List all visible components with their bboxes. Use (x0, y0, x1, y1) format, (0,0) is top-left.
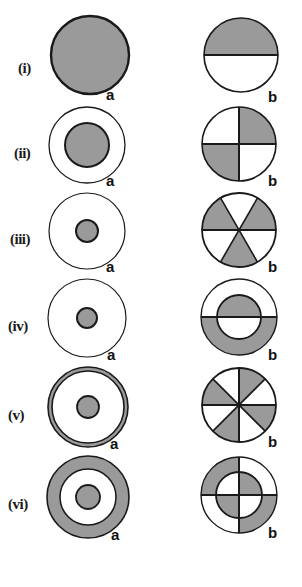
diagram-iv-a-label: a (107, 346, 115, 363)
figure-row-ii: (ii) a b (0, 104, 302, 189)
diagram-iii-b (199, 190, 279, 270)
inner-disc-shaded (76, 220, 98, 242)
diagram-iii-b-svg (199, 190, 279, 270)
diagram-iv-b-label: b (268, 346, 277, 363)
diagram-i-a-label: a (106, 86, 114, 103)
lower-half-white (204, 55, 278, 92)
row-numeral-iv: (iv) (8, 318, 28, 335)
diagram-i-a-svg (47, 12, 133, 98)
whole-disc-shaded (51, 16, 129, 94)
diagram-vi-a-svg (43, 452, 133, 542)
diagram-vi-a-label: a (111, 526, 119, 543)
figure-row-i: (i) a b (0, 12, 302, 97)
diagram-ii-b-label: b (268, 172, 277, 189)
diagram-v-b (199, 365, 279, 445)
diagram-iii-b-label: b (268, 258, 277, 275)
diagram-v-b-svg (199, 365, 279, 445)
diagram-vi-a (43, 452, 133, 542)
row-numeral-i: (i) (18, 60, 31, 77)
figure-row-iv: (iv) a b (0, 276, 302, 361)
inner-disc-shaded (77, 308, 97, 328)
diagram-iii-a (46, 190, 128, 272)
diagram-iv-a (45, 276, 129, 360)
diagram-i-b (200, 14, 282, 96)
figure-panel: (i) a b (ii) a (0, 0, 302, 587)
diagram-ii-a-svg (46, 104, 128, 186)
inner-disc-shaded (77, 396, 99, 418)
diagram-i-a (47, 12, 133, 98)
inner-disc-shaded (65, 123, 109, 167)
figure-row-iii: (iii) a (0, 190, 302, 275)
diagram-vi-b-label: b (268, 524, 277, 541)
diagram-v-a-label: a (110, 435, 118, 452)
figure-row-vi: (vi) a (0, 452, 302, 537)
figure-row-v: (v) a (0, 363, 302, 448)
diagram-ii-a-label: a (106, 172, 114, 189)
diagram-ii-b-svg (199, 104, 279, 184)
diagram-v-a (44, 363, 132, 451)
diagram-v-b-label: b (268, 433, 277, 450)
diagram-iv-a-svg (45, 276, 129, 360)
diagram-i-b-label: b (268, 88, 277, 105)
row-numeral-ii: (ii) (14, 145, 30, 162)
diagram-v-a-svg (44, 363, 132, 451)
diagram-ii-a (46, 104, 128, 186)
row-numeral-vi: (vi) (8, 496, 28, 513)
diagram-iii-a-svg (46, 190, 128, 272)
diagram-ii-b (199, 104, 279, 184)
inner-disc-shaded (76, 485, 100, 509)
row-numeral-iii: (iii) (10, 231, 30, 248)
row-numeral-v: (v) (8, 407, 24, 424)
diagram-i-b-svg (200, 14, 282, 96)
diagram-iii-a-label: a (106, 258, 114, 275)
upper-half-shaded (204, 18, 278, 55)
